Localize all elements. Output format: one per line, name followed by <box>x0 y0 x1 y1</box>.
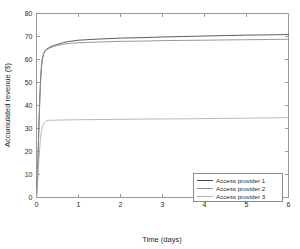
chart-legend[interactable]: Access provider 1Access provider 2Access… <box>193 173 282 201</box>
y-tick-label: 80 <box>25 10 33 17</box>
x-tick-label: 4 <box>203 201 207 208</box>
x-tick-label: 1 <box>77 201 81 208</box>
legend-label-3: Access provider 3 <box>216 193 266 200</box>
x-tick-label: 0 <box>35 201 39 208</box>
x-tick-label: 3 <box>161 201 165 208</box>
legend-label-2: Access provider 2 <box>216 185 266 192</box>
chart-figure: 0123456 01020304050607080 Time (days) Ac… <box>0 0 300 249</box>
x-axis-label: Time (days) <box>142 235 182 244</box>
y-tick-label: 30 <box>25 125 33 132</box>
x-tick-label: 2 <box>119 201 123 208</box>
legend-label-1: Access provider 1 <box>216 177 266 184</box>
y-tick-label: 70 <box>25 33 33 40</box>
line-chart: 0123456 01020304050607080 Time (days) Ac… <box>0 0 300 249</box>
y-axis-label: Accumulated revenue ($) <box>3 63 12 147</box>
x-tick-label: 5 <box>245 201 249 208</box>
y-tick-label: 0 <box>29 194 33 201</box>
x-tick-label: 6 <box>287 201 291 208</box>
y-tick-label: 10 <box>25 171 33 178</box>
y-tick-label: 40 <box>25 102 33 109</box>
y-tick-label: 50 <box>25 79 33 86</box>
y-tick-label: 60 <box>25 56 33 63</box>
y-axis-tick-labels: 01020304050607080 <box>25 10 33 201</box>
y-tick-label: 20 <box>25 148 33 155</box>
